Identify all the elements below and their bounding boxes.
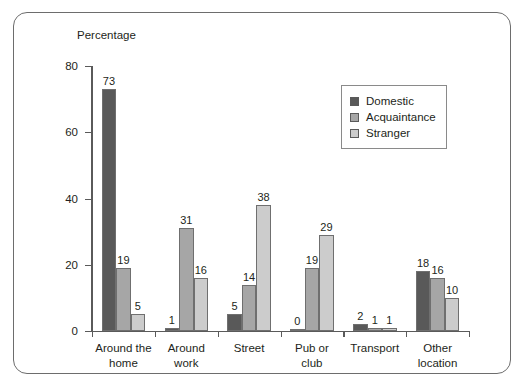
x-tick-mark xyxy=(406,331,407,337)
legend-item: Acquaintance xyxy=(350,109,436,125)
bar-value-label: 0 xyxy=(294,315,300,327)
bar-group: 73195 xyxy=(102,66,146,331)
bar xyxy=(319,235,334,331)
legend-swatch-icon xyxy=(350,113,359,122)
x-category-label: Around work xyxy=(168,341,205,371)
bar xyxy=(256,205,271,331)
bar xyxy=(305,268,320,331)
bar xyxy=(290,329,305,331)
bar-value-label: 2 xyxy=(357,310,363,322)
bar xyxy=(227,314,242,331)
x-category-label: Transport xyxy=(350,341,399,356)
x-tick-mark xyxy=(281,331,282,337)
bar xyxy=(179,228,194,331)
bar xyxy=(416,271,431,331)
bar-value-label: 1 xyxy=(169,314,175,326)
bar xyxy=(368,328,383,331)
bar-group: 01929 xyxy=(290,66,334,331)
bar xyxy=(165,328,180,331)
x-tick-mark xyxy=(343,331,344,337)
bar-value-label: 14 xyxy=(243,271,255,283)
y-tick-label: 0 xyxy=(14,325,78,337)
bar-value-label: 5 xyxy=(135,300,141,312)
bar-value-label: 16 xyxy=(431,264,443,276)
y-tick-label: 20 xyxy=(14,259,78,271)
bar xyxy=(430,278,445,331)
bar xyxy=(242,285,257,331)
y-tick-mark xyxy=(85,265,91,266)
bar xyxy=(102,89,117,331)
bar-value-label: 31 xyxy=(180,214,192,226)
x-category-label: Pub or club xyxy=(295,341,329,371)
y-axis-title: Percentage xyxy=(77,29,136,41)
legend-swatch-icon xyxy=(350,129,359,138)
bar xyxy=(445,298,460,331)
x-category-label: Around the home xyxy=(95,341,151,371)
y-tick-mark xyxy=(85,199,91,200)
bar-value-label: 19 xyxy=(306,254,318,266)
bar xyxy=(116,268,131,331)
bar-value-label: 18 xyxy=(417,257,429,269)
bar-group: 13116 xyxy=(165,66,209,331)
y-tick-label: 60 xyxy=(14,126,78,138)
x-category-label: Other location xyxy=(418,341,458,371)
y-tick-mark xyxy=(85,331,91,332)
bar xyxy=(353,324,368,331)
legend-label: Domestic xyxy=(366,95,414,107)
x-tick-mark xyxy=(469,331,470,337)
bar-value-label: 1 xyxy=(372,314,378,326)
bar-value-label: 73 xyxy=(103,75,115,87)
bar xyxy=(131,314,146,331)
x-tick-mark xyxy=(155,331,156,337)
y-tick-mark xyxy=(85,66,91,67)
bar-value-label: 38 xyxy=(257,191,269,203)
bar-value-label: 29 xyxy=(320,221,332,233)
bar-value-label: 10 xyxy=(446,284,458,296)
bar-group: 51438 xyxy=(227,66,271,331)
x-category-label: Street xyxy=(234,341,265,356)
bar xyxy=(382,328,397,331)
x-tick-mark xyxy=(218,331,219,337)
y-tick-label: 40 xyxy=(14,193,78,205)
legend-swatch-icon xyxy=(350,97,359,106)
bar-value-label: 19 xyxy=(117,254,129,266)
bar-value-label: 5 xyxy=(232,300,238,312)
chart-legend: DomesticAcquaintanceStranger xyxy=(341,85,447,149)
legend-label: Acquaintance xyxy=(366,111,436,123)
bar-value-label: 16 xyxy=(195,264,207,276)
bar-value-label: 1 xyxy=(386,314,392,326)
y-tick-label: 80 xyxy=(14,60,78,72)
legend-item: Domestic xyxy=(350,93,436,109)
legend-label: Stranger xyxy=(366,127,410,139)
bar xyxy=(194,278,209,331)
legend-item: Stranger xyxy=(350,125,436,141)
x-tick-mark xyxy=(92,331,93,337)
y-tick-mark xyxy=(85,132,91,133)
chart-frame: Percentage 020406080 7319513116514380192… xyxy=(13,12,511,374)
